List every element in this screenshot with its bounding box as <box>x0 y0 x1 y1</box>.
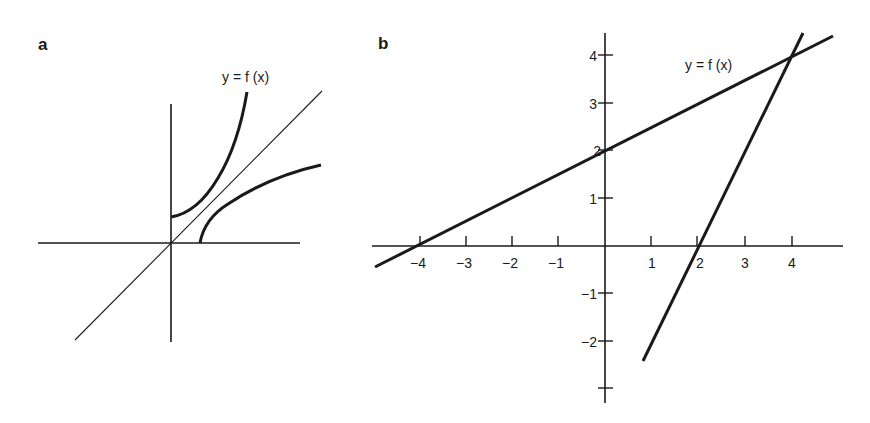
panel-b-function-label: y = f (x) <box>685 57 732 73</box>
panel-a-label: a <box>38 35 48 54</box>
panel-b-inverse-line <box>643 33 803 361</box>
x-tick-label: 1 <box>648 255 656 271</box>
y-tick-label: 3 <box>589 96 597 112</box>
x-tick-label: 2 <box>696 255 704 271</box>
x-tick-label: 4 <box>788 255 796 271</box>
panel-b-label: b <box>378 34 388 53</box>
x-tick-label: −3 <box>456 255 472 271</box>
y-tick-label: −2 <box>581 334 597 350</box>
panel-a: a y = f (x) <box>38 35 322 342</box>
x-tick-label: −2 <box>502 255 518 271</box>
panel-a-identity-line <box>75 91 322 340</box>
y-tick-label: 1 <box>589 191 597 207</box>
panel-b-x-tick-labels: −4 −3 −2 −1 1 2 3 4 <box>410 255 796 271</box>
panel-b: b y = f (x) −4 −3 −2 −1 1 2 3 4 <box>372 33 843 403</box>
x-tick-label: −1 <box>548 255 564 271</box>
panel-a-function-label: y = f (x) <box>222 69 269 85</box>
panel-b-x-ticks <box>420 236 792 246</box>
y-tick-label: 4 <box>589 48 597 64</box>
figure-canvas: a y = f (x) b y = f (x) <box>0 0 870 423</box>
panel-b-y-tick-labels: 4 3 2 1 −1 −2 <box>581 48 601 350</box>
x-tick-label: −4 <box>410 255 426 271</box>
x-tick-label: 3 <box>741 255 749 271</box>
panel-b-function-line <box>375 36 833 267</box>
y-tick-label: −1 <box>581 286 597 302</box>
